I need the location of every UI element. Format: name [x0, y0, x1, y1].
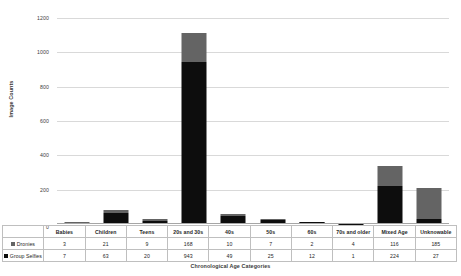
- data-cell: 168: [168, 238, 209, 250]
- y-axis-title: Image Counts: [8, 64, 14, 134]
- data-cell: 12: [291, 250, 332, 262]
- bar-stack[interactable]: [417, 188, 442, 224]
- y-tick-400: 400: [40, 152, 49, 158]
- data-cell: 9: [126, 238, 167, 250]
- data-table: BabiesChildrenTeens20s and 30s40s50s60s7…: [2, 225, 457, 262]
- table-row: Dronies321916810724116185: [3, 238, 457, 250]
- legend-row-label[interactable]: Group Selfies: [3, 250, 44, 262]
- column-header: 20s and 30s: [168, 226, 209, 238]
- data-cell: 25: [250, 250, 291, 262]
- data-cell: 21: [85, 238, 126, 250]
- bar-stack[interactable]: [378, 166, 403, 224]
- column-header: 60s: [291, 226, 332, 238]
- column-header: 40s: [209, 226, 250, 238]
- bar-slot: [253, 18, 292, 224]
- bar-segment-group-selfies[interactable]: [182, 62, 207, 224]
- data-cell: 116: [374, 238, 415, 250]
- legend-swatch-icon: [11, 242, 15, 246]
- column-header: 70s and older: [333, 226, 374, 238]
- data-table-wrap: BabiesChildrenTeens20s and 30s40s50s60s7…: [0, 225, 461, 262]
- column-header: Babies: [44, 226, 85, 238]
- bar-segment-dronies[interactable]: [417, 188, 442, 220]
- column-header: Unknowable: [415, 226, 456, 238]
- bar-slot: [331, 18, 370, 224]
- bar-slot: [96, 18, 135, 224]
- data-cell: 224: [374, 250, 415, 262]
- bar-slot: [371, 18, 410, 224]
- data-cell: 4: [333, 238, 374, 250]
- data-cell: 20: [126, 250, 167, 262]
- bar-stack[interactable]: [182, 33, 207, 224]
- y-tick-800: 800: [40, 84, 49, 90]
- data-cell: 3: [44, 238, 85, 250]
- bar-slot: [214, 18, 253, 224]
- bar-series-group: [57, 18, 449, 224]
- bar-slot: [57, 18, 96, 224]
- data-cell: 1: [333, 250, 374, 262]
- bar-slot: [292, 18, 331, 224]
- data-cell: 49: [209, 250, 250, 262]
- x-axis-line: [57, 223, 449, 224]
- data-cell: 63: [85, 250, 126, 262]
- bar-segment-group-selfies[interactable]: [378, 186, 403, 224]
- legend-swatch-icon: [4, 254, 8, 258]
- y-tick-1000: 1000: [37, 49, 49, 55]
- chart-figure: 1200 1000 800 600 400 200 0 Image Counts…: [0, 0, 461, 276]
- data-cell: 943: [168, 250, 209, 262]
- table-row: Group Selfies76320943492512122427: [3, 250, 457, 262]
- y-tick-600: 600: [40, 118, 49, 124]
- bar-slot: [135, 18, 174, 224]
- column-header: Mixed Age: [374, 226, 415, 238]
- table-corner-cell: [3, 226, 44, 238]
- bar-segment-dronies[interactable]: [378, 166, 403, 186]
- bar-stack[interactable]: [103, 210, 128, 224]
- y-tick-1200: 1200: [37, 15, 49, 21]
- column-header: 50s: [250, 226, 291, 238]
- data-cell: 7: [250, 238, 291, 250]
- legend-row-label[interactable]: Dronies: [3, 238, 44, 250]
- data-cell: 10: [209, 238, 250, 250]
- data-cell: 185: [415, 238, 456, 250]
- column-header: Teens: [126, 226, 167, 238]
- table-header-row: BabiesChildrenTeens20s and 30s40s50s60s7…: [3, 226, 457, 238]
- data-cell: 2: [291, 238, 332, 250]
- x-axis-title: Chronological Age Categories: [0, 263, 461, 269]
- bar-segment-dronies[interactable]: [182, 33, 207, 62]
- bar-slot: [410, 18, 449, 224]
- column-header: Children: [85, 226, 126, 238]
- plot-area: [57, 18, 449, 224]
- bar-slot: [175, 18, 214, 224]
- data-cell: 7: [44, 250, 85, 262]
- y-tick-200: 200: [40, 187, 49, 193]
- data-cell: 27: [415, 250, 456, 262]
